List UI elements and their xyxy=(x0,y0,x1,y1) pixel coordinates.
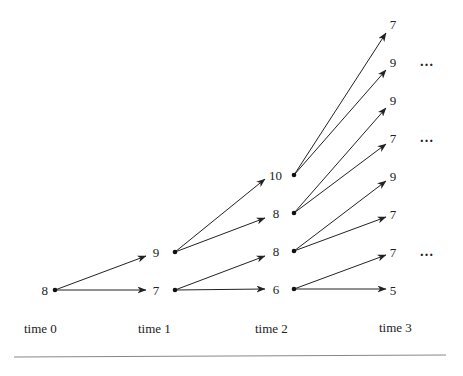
node-value: 10 xyxy=(269,168,282,183)
continuation-ellipses: … … … xyxy=(420,54,435,259)
node-value: 8 xyxy=(273,206,280,221)
edge-arrow xyxy=(175,179,265,252)
node-value: 7 xyxy=(390,131,397,146)
node-value: 7 xyxy=(153,283,160,298)
edges-time1 xyxy=(175,179,265,290)
node-value: 9 xyxy=(153,245,160,260)
node-value: 7 xyxy=(390,207,397,222)
time-label-2: time 2 xyxy=(255,321,288,336)
ellipsis-icon: … xyxy=(420,130,435,145)
edges-time0 xyxy=(55,256,146,290)
time-labels: time 0 time 1 time 2 time 3 xyxy=(24,320,412,336)
node-value: 5 xyxy=(390,283,397,298)
node-dot xyxy=(292,173,297,178)
node-dot xyxy=(173,250,178,255)
node-dots xyxy=(53,173,297,293)
node-dot xyxy=(292,287,297,292)
ellipsis-icon: … xyxy=(420,244,435,259)
time-label-3: time 3 xyxy=(379,320,412,335)
node-dot xyxy=(173,288,178,293)
node-value: 6 xyxy=(273,282,280,297)
node-dot xyxy=(292,249,297,254)
node-labels: 8 9 7 10 8 8 6 7 9 9 7 9 7 7 5 xyxy=(42,17,397,298)
edge-arrow xyxy=(294,255,386,289)
node-value: 7 xyxy=(390,245,397,260)
edge-arrow xyxy=(55,256,146,290)
time-label-1: time 1 xyxy=(138,321,171,336)
node-value: 8 xyxy=(273,244,280,259)
node-value: 7 xyxy=(390,17,397,32)
node-value: 9 xyxy=(390,169,397,184)
node-dot xyxy=(292,211,297,216)
node-dot xyxy=(53,288,58,293)
node-value: 9 xyxy=(390,55,397,70)
edge-arrow xyxy=(294,108,386,213)
edge-arrow xyxy=(294,70,386,175)
bottom-divider xyxy=(14,355,446,357)
node-value: 8 xyxy=(42,283,49,298)
edge-arrow xyxy=(175,289,265,290)
ellipsis-icon: … xyxy=(420,54,435,69)
edge-arrow xyxy=(175,256,265,290)
node-value: 9 xyxy=(390,93,397,108)
edge-arrow xyxy=(294,33,386,175)
edge-arrow xyxy=(294,181,386,251)
time-label-0: time 0 xyxy=(24,321,57,336)
edge-arrow xyxy=(175,218,265,252)
binomial-tree-diagram: 8 9 7 10 8 8 6 7 9 9 7 9 7 7 5 … … … tim… xyxy=(0,0,463,376)
edges-time2 xyxy=(294,33,386,289)
edge-arrow xyxy=(294,217,386,251)
